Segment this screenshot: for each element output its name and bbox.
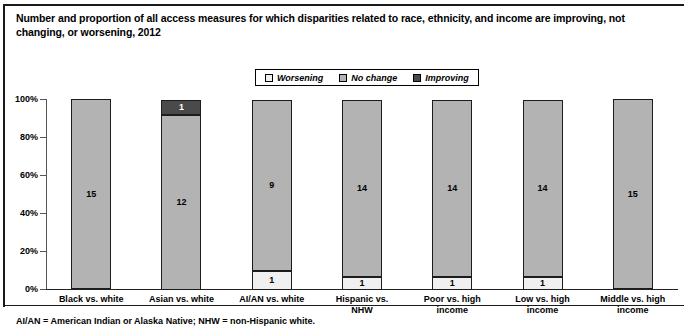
x-axis-category-label: Asian vs. white — [136, 294, 226, 305]
bar-segment-value: 15 — [86, 190, 96, 199]
x-axis-category-line: income — [588, 305, 678, 316]
bar-segment-value: 14 — [357, 184, 367, 193]
bar-segment-no-change[interactable]: 14 — [432, 100, 472, 277]
bar-segment-value: 1 — [359, 279, 364, 288]
bar-column: 15 — [71, 99, 111, 289]
x-axis-category-line: income — [407, 305, 497, 316]
bar-column: 91 — [252, 100, 292, 289]
x-axis-category-line: NHW — [317, 305, 407, 316]
bar-segment-value: 1 — [269, 276, 274, 285]
bar-segment-value: 1 — [179, 103, 184, 112]
plot-area: 151129114114114115 — [46, 99, 678, 289]
y-axis-label: 40% — [2, 208, 38, 218]
bar-segment-value: 15 — [628, 190, 638, 199]
y-axis-label: 80% — [2, 132, 38, 142]
y-axis-label: 20% — [2, 246, 38, 256]
bar-segment-improving[interactable]: 1 — [161, 100, 201, 115]
chart-footnote: AI/AN = American Indian or Alaska Native… — [16, 316, 315, 326]
bar-segment-no-change[interactable]: 15 — [613, 99, 653, 289]
y-axis-label: 0% — [2, 284, 38, 294]
bar-segment-worsening[interactable]: 1 — [252, 271, 292, 290]
bar-stack[interactable]: 141 — [523, 99, 563, 289]
x-axis-category-line: income — [497, 305, 587, 316]
x-axis-category-line: Middle vs. high — [588, 294, 678, 305]
bar-stack[interactable]: 141 — [432, 99, 472, 289]
bar-segment-value: 12 — [176, 198, 186, 207]
bar-stack[interactable]: 91 — [252, 99, 292, 289]
y-axis-label: 60% — [2, 170, 38, 180]
bar-segment-value: 1 — [540, 279, 545, 288]
x-axis-category-label: AI/AN vs. white — [227, 294, 317, 305]
bar-segment-no-change[interactable]: 12 — [161, 115, 201, 290]
bar-stack[interactable]: 15 — [613, 99, 653, 289]
bar-segment-no-change[interactable]: 14 — [342, 100, 382, 277]
figure-container: Number and proportion of all access meas… — [0, 0, 686, 334]
bar-segment-no-change[interactable]: 14 — [523, 100, 563, 277]
x-axis-category-label: Hispanic vs.NHW — [317, 294, 407, 316]
x-axis-category-line: Low vs. high — [497, 294, 587, 305]
bar-segment-worsening[interactable]: 1 — [523, 277, 563, 290]
bar-segment-value: 9 — [269, 181, 274, 190]
x-axis-category-line: Poor vs. high — [407, 294, 497, 305]
x-axis-category-label: Middle vs. highincome — [588, 294, 678, 316]
bar-column: 141 — [523, 100, 563, 289]
x-axis-category-label: Low vs. highincome — [497, 294, 587, 316]
bar-column: 141 — [432, 100, 472, 289]
bar-column: 141 — [342, 100, 382, 289]
x-axis-category-line: Hispanic vs. — [317, 294, 407, 305]
bar-stack[interactable]: 141 — [342, 99, 382, 289]
bar-segment-no-change[interactable]: 15 — [71, 99, 111, 289]
bar-stack[interactable]: 112 — [161, 99, 201, 289]
x-axis-category-label: Black vs. white — [46, 294, 136, 305]
bar-segment-no-change[interactable]: 9 — [252, 100, 292, 271]
x-axis-category-line: AI/AN vs. white — [227, 294, 317, 305]
bar-stack[interactable]: 15 — [71, 99, 111, 289]
x-axis-category-line: Asian vs. white — [136, 294, 226, 305]
bar-segment-value: 14 — [447, 184, 457, 193]
bar-segment-value: 14 — [538, 184, 548, 193]
bar-segment-value: 1 — [450, 279, 455, 288]
bar-column: 15 — [613, 99, 653, 289]
x-axis-category-label: Poor vs. highincome — [407, 294, 497, 316]
x-axis-category-line: Black vs. white — [46, 294, 136, 305]
bar-column: 112 — [161, 100, 201, 289]
y-axis-label: 100% — [2, 94, 38, 104]
bar-segment-worsening[interactable]: 1 — [432, 277, 472, 290]
bar-segment-worsening[interactable]: 1 — [342, 277, 382, 290]
